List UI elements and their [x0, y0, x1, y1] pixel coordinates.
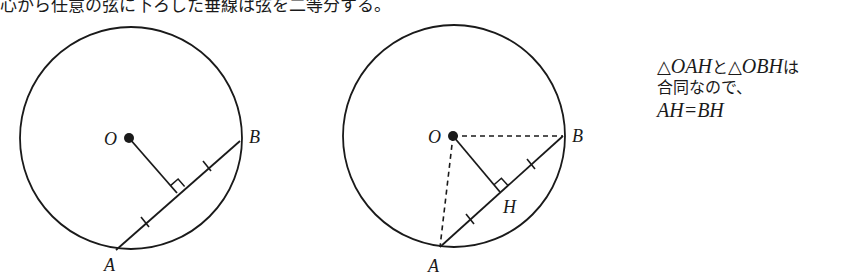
geometry-diagram: O B A O B H A	[0, 0, 858, 279]
note-line-1: △OAHと△OBHは	[657, 56, 799, 78]
note-equation: AH=BH	[657, 100, 799, 120]
label-o-right: O	[428, 127, 441, 147]
dashed-radius-oa	[440, 136, 453, 247]
label-b-right: B	[572, 126, 583, 146]
topic-particle: は	[783, 58, 799, 77]
chord-ab-right	[440, 136, 563, 247]
right-angle-mark-right	[494, 178, 508, 185]
label-o-left: O	[104, 129, 117, 149]
right-angle-mark-left	[171, 179, 185, 186]
label-a-right: A	[427, 256, 440, 276]
and-particle: と	[712, 58, 728, 77]
triangle-symbol: △	[728, 56, 742, 77]
perpendicular-oh-right	[453, 136, 500, 192]
label-a-left: A	[103, 255, 116, 275]
center-dot-right	[448, 131, 458, 141]
triangle-symbol: △	[657, 56, 671, 77]
perpendicular-oh-left	[129, 138, 177, 193]
chord-ab-left	[116, 141, 240, 250]
label-h-right: H	[502, 197, 517, 217]
center-dot-left	[124, 133, 134, 143]
note-line-2: 合同なので、	[657, 78, 799, 98]
congruence-note: △OAHと△OBHは 合同なので、 AH=BH	[657, 56, 799, 120]
triangle-oah: OAH	[671, 55, 712, 77]
label-b-left: B	[249, 127, 260, 147]
triangle-obh: OBH	[742, 55, 783, 77]
